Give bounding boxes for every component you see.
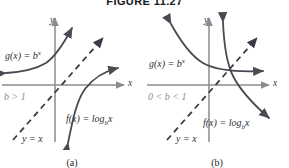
caption-panel-a: (a) — [0, 157, 144, 168]
panel-a-logarithm-label: f(x) = logbx — [66, 114, 112, 127]
panel-b-x-axis-label: x — [273, 79, 277, 89]
panel-a-identity-label: y = x — [22, 134, 43, 144]
panel-b-identity-label: y = x — [176, 134, 197, 144]
figure-container: FIGURE 11.27 — [0, 0, 289, 168]
panel-a-exponential-growth: y x g(x) = bx f(x) = logbx y = x b > 1 — [0, 8, 144, 150]
caption-panel-b: (b) — [145, 157, 289, 168]
panel-a-x-axis-label: x — [128, 79, 132, 89]
figure-title: FIGURE 11.27 — [0, 0, 289, 7]
panel-b-exponential-label: g(x) = bx — [149, 58, 185, 69]
panel-a-plot — [0, 8, 144, 150]
panel-b-condition-label: 0 < b < 1 — [148, 92, 187, 102]
panel-b-logarithm-label: f(x) = logbx — [203, 118, 249, 131]
panel-b-exponential-decay: y x g(x) = bx f(x) = logbx y = x 0 < b <… — [145, 8, 289, 150]
panel-a-y-axis-label: y — [50, 16, 54, 26]
logarithm-curve-f — [68, 68, 118, 143]
panel-b-y-axis-label: y — [204, 16, 208, 26]
panel-a-condition-label: b > 1 — [4, 92, 26, 102]
panel-a-exponential-label: g(x) = bx — [5, 50, 41, 61]
logarithm-curve-f — [223, 22, 269, 118]
